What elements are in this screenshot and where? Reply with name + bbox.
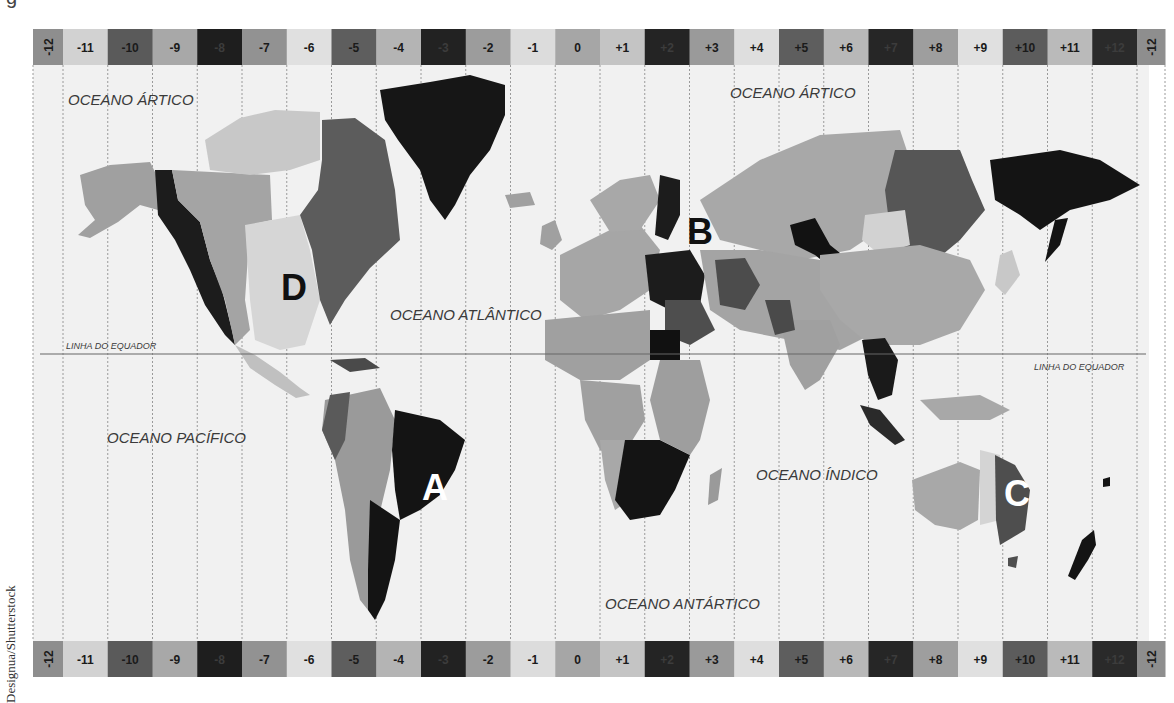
time-zone-label: -3 — [438, 41, 449, 55]
time-zone-cell: +4 — [734, 641, 779, 677]
time-zone-label: +12 — [1104, 41, 1125, 55]
marker-b: B — [687, 211, 713, 252]
time-zone-cell: +7 — [869, 641, 914, 677]
time-zone-scale-bottom: -12-11-10-9-8-7-6-5-4-3-2-10+1+2+3+4+5+6… — [33, 641, 1166, 677]
time-zone-cell: +3 — [690, 29, 735, 65]
time-zone-label: +7 — [884, 653, 898, 667]
ocean-label-pacific: OCEANO PACÍFICO — [107, 429, 246, 446]
time-zone-label: 0 — [574, 653, 581, 667]
time-zone-label: +12 — [1104, 653, 1125, 667]
time-zone-cell: +11 — [1048, 641, 1093, 677]
time-zone-label: +11 — [1060, 653, 1080, 667]
time-zone-cell: +6 — [824, 29, 869, 65]
equator-label-equator-east: LINHA DO EQUADOR — [1034, 362, 1125, 372]
ocean-label-arctic-west: OCEANO ÁRTICO — [68, 91, 194, 108]
time-zone-cell: -5 — [332, 641, 377, 677]
time-zone-label: +4 — [750, 653, 764, 667]
time-zone-label: +9 — [974, 41, 988, 55]
time-zone-cell: +6 — [824, 641, 869, 677]
equator-label-equator-west: LINHA DO EQUADOR — [66, 341, 157, 351]
time-zone-label: +9 — [974, 653, 988, 667]
time-zone-cell: +5 — [779, 29, 824, 65]
title-fragment: g — [6, 0, 17, 9]
time-zone-label: -12 — [1145, 650, 1159, 668]
time-zone-label: 0 — [574, 41, 581, 55]
time-zone-label: -7 — [259, 653, 270, 667]
time-zone-cell: +1 — [600, 641, 645, 677]
time-zone-cell: +5 — [779, 641, 824, 677]
time-zone-cell: +12 — [1092, 641, 1137, 677]
time-zone-label: +2 — [660, 41, 674, 55]
time-zone-label: -11 — [77, 41, 94, 55]
time-zone-cell: -10 — [108, 641, 153, 677]
time-zone-cell: +10 — [1003, 641, 1048, 677]
time-zone-cell: +8 — [913, 29, 958, 65]
time-zone-label: -8 — [214, 653, 225, 667]
time-zone-cell: 0 — [555, 29, 600, 65]
time-zone-cell: -9 — [153, 29, 198, 65]
time-zone-cell: +4 — [734, 29, 779, 65]
time-zone-label: -8 — [214, 41, 225, 55]
time-zone-label: -2 — [483, 41, 494, 55]
time-zone-cell: -12 — [33, 641, 64, 677]
time-zone-label: -11 — [77, 653, 94, 667]
time-zone-cell: +10 — [1003, 29, 1048, 65]
time-zone-label: +4 — [750, 41, 764, 55]
time-zone-cell: +7 — [869, 29, 914, 65]
time-zone-label: +10 — [1015, 653, 1036, 667]
time-zone-cell: -2 — [466, 641, 511, 677]
time-zone-cell: +9 — [958, 641, 1003, 677]
time-zone-cell: -4 — [376, 641, 421, 677]
time-zone-cell: -7 — [242, 29, 287, 65]
time-zone-cell: +2 — [645, 29, 690, 65]
time-zone-label: -1 — [528, 41, 539, 55]
time-zone-cell: -2 — [466, 29, 511, 65]
marker-c: C — [1004, 473, 1030, 514]
time-zone-label: +6 — [839, 41, 853, 55]
image-credit: Designua/Shutterstock — [3, 527, 17, 703]
time-zone-cell: -6 — [287, 641, 332, 677]
time-zone-scale-top: -12-11-10-9-8-7-6-5-4-3-2-10+1+2+3+4+5+6… — [33, 29, 1166, 65]
time-zone-label: +8 — [929, 41, 943, 55]
ocean-label-indian: OCEANO ÍNDICO — [756, 466, 878, 483]
time-zone-cell: -7 — [242, 641, 287, 677]
time-zone-cell: -11 — [63, 29, 108, 65]
time-zone-label: +2 — [660, 653, 674, 667]
time-zone-label: -4 — [393, 653, 404, 667]
time-zone-label: +5 — [795, 41, 809, 55]
time-zone-label: +3 — [705, 653, 719, 667]
time-zone-cell: -3 — [421, 641, 466, 677]
ocean-label-arctic-east: OCEANO ÁRTICO — [730, 84, 856, 101]
ocean-label-antarctic: OCEANO ANTÁRTICO — [605, 595, 760, 612]
time-zone-cell: -12 — [1137, 29, 1166, 65]
time-zone-cell: -6 — [287, 29, 332, 65]
time-zone-label: +7 — [884, 41, 898, 55]
time-zone-label: -12 — [42, 650, 56, 668]
marker-d: D — [281, 267, 307, 308]
time-zone-label: +6 — [839, 653, 853, 667]
time-zone-cell: +2 — [645, 641, 690, 677]
time-zone-label: -9 — [170, 653, 181, 667]
time-zone-cell: -3 — [421, 29, 466, 65]
time-zone-label: -3 — [438, 653, 449, 667]
time-zone-cell: +1 — [600, 29, 645, 65]
ocean-label-atlantic: OCEANO ATLÂNTICO — [390, 306, 542, 323]
marker-a: A — [422, 467, 448, 508]
time-zone-label: +1 — [616, 653, 630, 667]
time-zone-label: +10 — [1015, 41, 1036, 55]
time-zone-label: -6 — [304, 41, 315, 55]
time-zone-label: -10 — [121, 653, 139, 667]
time-zone-cell: -12 — [1137, 641, 1166, 677]
time-zone-label: -2 — [483, 653, 494, 667]
time-zone-label: +8 — [929, 653, 943, 667]
time-zone-cell: -5 — [332, 29, 377, 65]
time-zone-label: -6 — [304, 653, 315, 667]
time-zone-label: -4 — [393, 41, 404, 55]
time-zone-cell: -4 — [376, 29, 421, 65]
time-zone-label: -12 — [1145, 38, 1159, 56]
time-zone-cell: +12 — [1092, 29, 1137, 65]
time-zone-cell: +8 — [913, 641, 958, 677]
time-zone-cell: -8 — [197, 29, 242, 65]
